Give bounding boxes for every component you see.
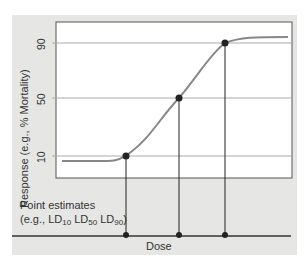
- ld10-sub: 10: [62, 218, 71, 227]
- point-ld10: [123, 153, 130, 160]
- y-axis-label: Response (e.g., % Mortality): [18, 69, 30, 208]
- point-estimates-annotation: Point estimates (e.g., LD10 LD50 LD90): [20, 198, 127, 230]
- ld-label: LD: [74, 213, 88, 225]
- plot-area: [56, 22, 292, 178]
- dose-dot-ld10: [123, 232, 129, 238]
- point-ld50: [176, 95, 183, 102]
- ld50-sub: 50: [88, 218, 97, 227]
- ld-label: LD: [48, 213, 62, 225]
- dose-dot-ld50: [176, 232, 182, 238]
- point-estimates-examples: (e.g., LD10 LD50 LD90): [20, 212, 127, 230]
- point-estimates-title: Point estimates: [20, 198, 127, 212]
- dose-dot-ld90: [222, 232, 228, 238]
- ld90-sub: 90: [114, 218, 123, 227]
- point-ld90: [222, 40, 229, 47]
- tick-90: 90: [35, 38, 47, 50]
- pe-suffix: ): [123, 213, 127, 225]
- x-axis-label: Dose: [146, 240, 172, 252]
- tick-10: 10: [35, 151, 47, 163]
- tick-50: 50: [35, 93, 47, 105]
- ld-label: LD: [100, 213, 114, 225]
- pe-prefix: (e.g.,: [20, 213, 48, 225]
